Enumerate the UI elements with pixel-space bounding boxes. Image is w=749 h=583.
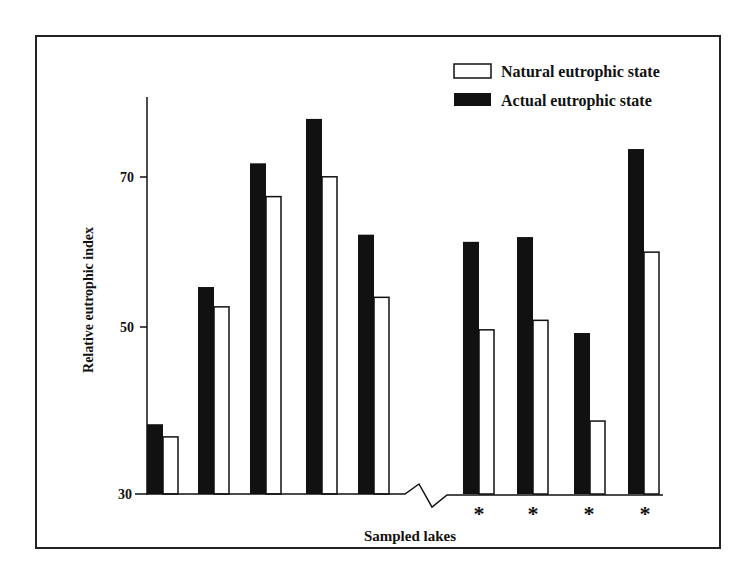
marker-lake-8: *	[584, 501, 595, 526]
bars	[147, 119, 659, 494]
legend-label-natural: Natural eutrophic state	[501, 63, 660, 81]
y-tick-70: 70	[120, 170, 134, 185]
bar-actual-lake-8	[574, 333, 590, 494]
bar-actual-lake-6	[463, 242, 479, 494]
bar-natural-lake-1	[163, 437, 178, 494]
bar-natural-lake-4	[322, 177, 337, 494]
bar-actual-lake-2	[198, 287, 214, 494]
bar-natural-lake-5	[374, 297, 389, 494]
bar-actual-lake-1	[147, 424, 163, 494]
legend-label-actual: Actual eutrophic state	[501, 92, 652, 110]
bar-actual-lake-3	[250, 163, 266, 494]
bar-actual-lake-5	[358, 235, 374, 494]
bar-chart: Natural eutrophic state Actual eutrophic…	[0, 0, 749, 583]
bar-actual-lake-4	[306, 119, 322, 494]
bar-natural-lake-2	[214, 307, 229, 494]
x-axis-label: Sampled lakes	[364, 528, 456, 544]
bar-actual-lake-9	[628, 149, 644, 494]
bar-natural-lake-9	[644, 252, 659, 494]
legend-swatch-actual	[454, 93, 491, 106]
bar-natural-lake-3	[266, 197, 281, 494]
y-axis-label: Relative eutrophic index	[81, 227, 96, 373]
bar-natural-lake-7	[533, 320, 548, 494]
legend-swatch-natural	[454, 64, 491, 78]
y-tick-50: 50	[120, 320, 134, 335]
bar-natural-lake-8	[590, 421, 605, 494]
marker-lake-9: *	[640, 501, 651, 526]
y-tick-30: 30	[118, 487, 132, 502]
marker-lake-7: *	[528, 501, 539, 526]
marker-lake-6: *	[474, 501, 485, 526]
bar-actual-lake-7	[517, 237, 533, 494]
legend: Natural eutrophic state Actual eutrophic…	[454, 63, 660, 110]
bar-natural-lake-6	[479, 330, 494, 494]
y-axis: 70 50 30 Relative eutrophic index	[81, 97, 147, 502]
